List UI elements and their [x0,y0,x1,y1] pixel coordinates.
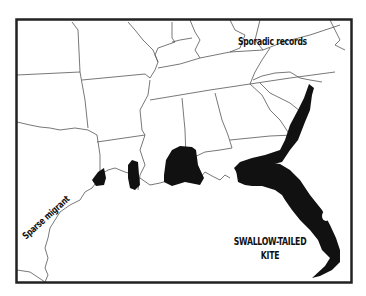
map-title: SWALLOW-TAILED KITE [221,234,319,262]
map-title-line2: KITE [221,248,319,262]
range-map: Sporadic records Sparse migrant SWALLOW-… [0,0,366,296]
map-title-line1: SWALLOW-TAILED [221,234,319,248]
annotation-sporadic-records: Sporadic records [238,36,307,47]
lake-okeechobee [322,211,330,221]
